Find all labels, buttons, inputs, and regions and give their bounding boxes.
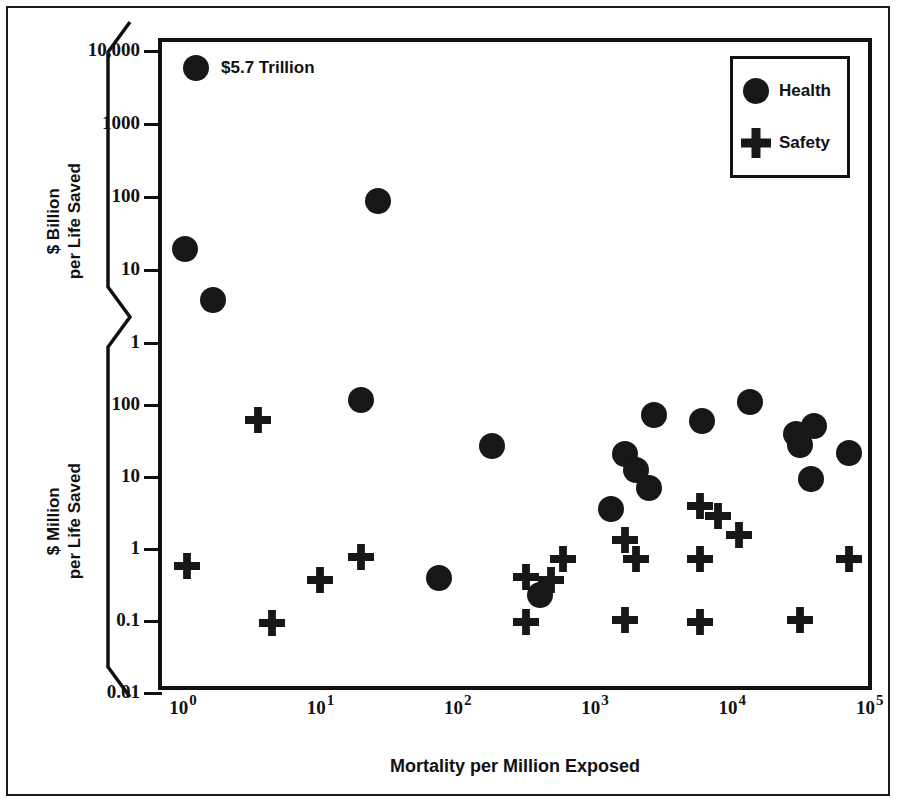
- data-point-safety: [245, 407, 271, 433]
- data-point-safety: [259, 610, 285, 636]
- data-point-health: [365, 188, 391, 214]
- cross-marker-icon: [733, 128, 779, 158]
- chart-figure: $ Billion per Life Saved $ Million per L…: [0, 0, 897, 803]
- y-axis-title-upper-line1: $ Billion: [43, 131, 64, 311]
- y-axis-tick-label: 100: [112, 185, 141, 207]
- data-point-safety: [513, 609, 539, 635]
- x-axis-title: Mortality per Million Exposed: [158, 756, 872, 777]
- y-axis-tick: [144, 269, 162, 272]
- y-axis-tick-label: 10,000: [88, 39, 140, 61]
- data-point-safety: [687, 546, 713, 572]
- y-axis-tick-label: 10: [121, 258, 140, 280]
- data-point-safety: [307, 567, 333, 593]
- y-axis-tick: [144, 620, 162, 623]
- x-axis-tick-label: 100: [169, 698, 196, 717]
- legend: Health Safety: [730, 56, 850, 178]
- data-point-health: [348, 387, 374, 413]
- circle-marker-icon: [733, 78, 779, 104]
- data-point-health: [641, 402, 667, 428]
- y-axis-title-lower-line1: $ Million: [43, 431, 64, 611]
- data-point-health: [836, 440, 862, 466]
- data-point-safety: [174, 553, 200, 579]
- y-axis-tick-label: 10: [121, 465, 140, 487]
- data-point-safety: [726, 522, 752, 548]
- data-point-health: [479, 433, 505, 459]
- x-axis-tick-label: 102: [444, 698, 471, 717]
- y-axis-tick-label: 0.01: [107, 681, 140, 703]
- x-axis-tick-label: 103: [581, 698, 608, 717]
- data-point-safety: [348, 544, 374, 570]
- data-point-health: [172, 236, 198, 262]
- y-axis-tick-label: 1000: [102, 112, 140, 134]
- y-axis-tick: [144, 404, 162, 407]
- y-axis-tick: [144, 548, 162, 551]
- data-point-health: [200, 287, 226, 313]
- x-axis-tick-label: 101: [307, 698, 334, 717]
- plot-inner: 10,0001000100101 1001010.10.01 100101102…: [162, 42, 868, 686]
- data-point-health: [798, 466, 824, 492]
- plot-area: 10,0001000100101 1001010.10.01 100101102…: [158, 38, 872, 690]
- data-point-health: [689, 408, 715, 434]
- y-axis-tick: [144, 342, 162, 345]
- annotation-trillion: $5.7 Trillion: [221, 58, 315, 78]
- x-axis-tick-label: 105: [856, 698, 883, 717]
- data-point-safety: [612, 607, 638, 633]
- y-axis-tick-label: 0.1: [116, 609, 140, 631]
- data-point-health: [183, 55, 209, 81]
- x-axis-tick-label: 104: [719, 698, 746, 717]
- data-point-safety: [787, 607, 813, 633]
- legend-label-safety: Safety: [779, 133, 830, 153]
- y-axis-tick: [144, 50, 162, 53]
- y-axis-tick-label: 1: [131, 537, 141, 559]
- data-point-health: [598, 496, 624, 522]
- data-point-safety: [623, 546, 649, 572]
- data-point-safety: [687, 609, 713, 635]
- data-point-safety: [550, 546, 576, 572]
- legend-entry-safety: Safety: [733, 121, 847, 165]
- y-axis-title-lower: $ Million per Life Saved: [43, 431, 86, 611]
- y-axis-tick-label: 1: [131, 331, 141, 353]
- legend-entry-health: Health: [733, 69, 847, 113]
- data-point-health: [426, 565, 452, 591]
- legend-label-health: Health: [779, 81, 831, 101]
- data-point-health: [636, 475, 662, 501]
- y-axis-title-upper: $ Billion per Life Saved: [43, 131, 86, 311]
- data-point-health: [737, 389, 763, 415]
- data-point-safety: [513, 564, 539, 590]
- y-axis-tick-label: 100: [112, 393, 141, 415]
- y-axis-tick: [144, 476, 162, 479]
- data-point-health: [801, 413, 827, 439]
- y-axis-title-lower-line2: per Life Saved: [64, 431, 85, 611]
- y-axis-tick: [144, 692, 162, 695]
- y-axis-title-upper-line2: per Life Saved: [64, 131, 85, 311]
- y-axis-tick: [144, 123, 162, 126]
- data-point-safety: [836, 546, 862, 572]
- y-axis-tick: [144, 196, 162, 199]
